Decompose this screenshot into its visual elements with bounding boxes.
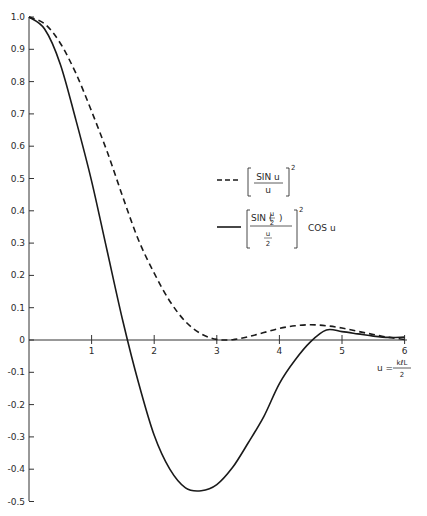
x-tick-label: 3 bbox=[214, 346, 220, 356]
legend-solid-den-num: u bbox=[266, 230, 270, 238]
solid-series-line bbox=[29, 17, 405, 491]
y-tick-label: 0.8 bbox=[11, 77, 26, 87]
y-tick-label: 0 bbox=[19, 335, 25, 345]
y-tick-label: 0.1 bbox=[11, 303, 25, 313]
x-tick-label: 6 bbox=[402, 346, 408, 356]
legend: SIN u u 2 SIN ( u 2 ) u 2 2 COS u bbox=[217, 164, 336, 248]
x-tick-label: 2 bbox=[151, 346, 157, 356]
dashed-series-line bbox=[29, 17, 405, 340]
x-axis-label-denominator: 2 bbox=[400, 371, 404, 379]
legend-solid-inner-num: u bbox=[270, 210, 274, 218]
y-tick-label: 0.4 bbox=[11, 206, 26, 216]
x-tick-label: 5 bbox=[339, 346, 345, 356]
x-tick-label: 1 bbox=[89, 346, 95, 356]
legend-solid-den-den: 2 bbox=[266, 240, 270, 248]
legend-solid-numerator-close: ) bbox=[279, 213, 283, 223]
y-tick-label: 0.7 bbox=[11, 109, 25, 119]
legend-item-solid: SIN ( u 2 ) u 2 2 COS u bbox=[217, 206, 336, 248]
y-tick-label: 0.3 bbox=[11, 238, 25, 248]
legend-right-bracket bbox=[286, 168, 289, 196]
x-axis-label: u = kℓL 2 bbox=[377, 359, 411, 379]
y-tick-label: 0.2 bbox=[11, 270, 25, 280]
legend-dashed-numerator: SIN u bbox=[256, 172, 280, 182]
x-axis-label-numerator: kℓL bbox=[397, 359, 408, 367]
x-tick-label: 4 bbox=[277, 346, 283, 356]
legend-dashed-denominator: u bbox=[265, 185, 271, 195]
y-tick-label: -0.3 bbox=[7, 432, 25, 442]
x-axis-label-lhs: u = bbox=[377, 363, 393, 373]
y-tick-label: -0.4 bbox=[7, 464, 25, 474]
y-tick-label: 0.9 bbox=[11, 44, 26, 54]
plot-area: 1.00.90.80.70.60.50.40.30.20.10-0.1-0.2-… bbox=[0, 0, 427, 516]
y-tick-label: -0.1 bbox=[7, 367, 25, 377]
legend-right-bracket bbox=[294, 210, 297, 248]
y-tick-label: 1.0 bbox=[11, 12, 26, 22]
chart: 1.00.90.80.70.60.50.40.30.20.10-0.1-0.2-… bbox=[0, 0, 427, 516]
y-ticks: 1.00.90.80.70.60.50.40.30.20.10-0.1-0.2-… bbox=[7, 12, 34, 507]
y-tick-label: -0.5 bbox=[7, 497, 25, 507]
y-tick-label: 0.6 bbox=[11, 141, 26, 151]
y-tick-label: 0.5 bbox=[11, 174, 25, 184]
legend-left-bracket bbox=[247, 210, 250, 248]
y-tick-label: -0.2 bbox=[7, 400, 25, 410]
legend-dashed-exponent: 2 bbox=[291, 164, 295, 172]
legend-item-dashed: SIN u u 2 bbox=[217, 164, 295, 196]
legend-left-bracket bbox=[248, 168, 251, 196]
x-ticks: 123456 bbox=[89, 335, 408, 356]
legend-solid-suffix: COS u bbox=[308, 223, 336, 233]
legend-solid-exponent: 2 bbox=[299, 206, 303, 214]
